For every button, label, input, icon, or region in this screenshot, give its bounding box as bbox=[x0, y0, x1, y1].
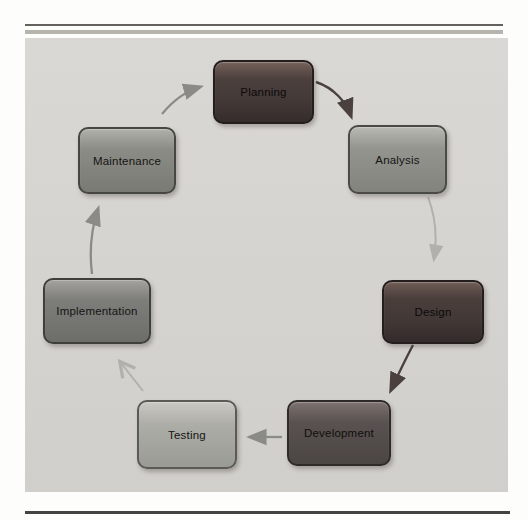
node-planning-label: Planning bbox=[240, 86, 286, 98]
node-design: Design bbox=[382, 280, 484, 344]
node-testing-label: Testing bbox=[168, 429, 206, 441]
book-page: Planning Analysis Design Development Tes… bbox=[0, 0, 528, 520]
node-analysis-label: Analysis bbox=[375, 154, 419, 166]
node-development: Development bbox=[287, 400, 391, 466]
node-analysis: Analysis bbox=[348, 125, 447, 194]
node-maintenance: Maintenance bbox=[78, 127, 176, 194]
node-planning: Planning bbox=[213, 60, 314, 124]
node-design-label: Design bbox=[415, 306, 452, 318]
node-implementation-label: Implementation bbox=[56, 305, 137, 317]
bottom-rule bbox=[25, 511, 510, 514]
node-maintenance-label: Maintenance bbox=[93, 155, 161, 167]
node-development-label: Development bbox=[304, 427, 374, 439]
node-implementation: Implementation bbox=[43, 278, 151, 344]
top-rule-dark bbox=[25, 24, 503, 26]
node-testing: Testing bbox=[137, 400, 237, 469]
top-rule-light bbox=[25, 30, 503, 34]
